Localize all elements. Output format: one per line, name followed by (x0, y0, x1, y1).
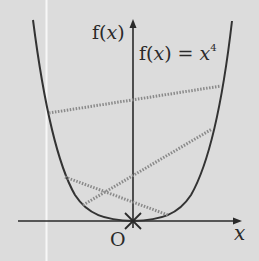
background (0, 0, 259, 261)
function-label: f(x) = x4 (139, 42, 217, 64)
x-axis-label: x (234, 221, 245, 245)
y-axis-label: f(x) (92, 21, 125, 43)
x4-diagram: f(x) f(x) = x4 O x (0, 0, 259, 261)
origin-label: O (110, 228, 126, 250)
